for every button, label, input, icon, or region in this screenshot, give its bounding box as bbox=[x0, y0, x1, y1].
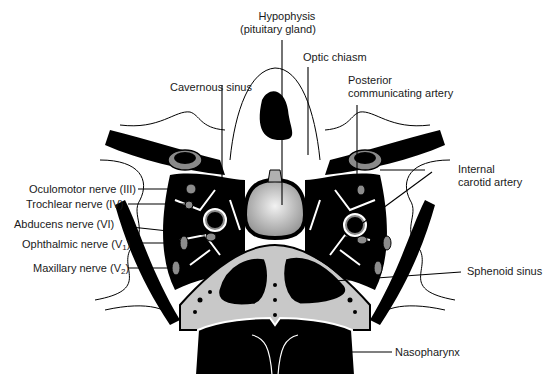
label-nasopharynx: Nasopharynx bbox=[395, 346, 460, 359]
label-optic-chiasm: Optic chiasm bbox=[303, 51, 367, 64]
label-hypophysis: Hypophysis (pituitary gland) bbox=[258, 10, 316, 36]
pituitary-gland bbox=[245, 170, 305, 238]
label-ica-line1: Internal bbox=[458, 163, 522, 176]
nasopharynx bbox=[195, 318, 355, 375]
maxillary-text: Maxillary nerve (V bbox=[33, 262, 121, 274]
label-ica-line2: carotid artery bbox=[458, 176, 522, 189]
anatomy-figure: Hypophysis (pituitary gland) Optic chias… bbox=[0, 0, 550, 389]
label-posterior-line2: communicating artery bbox=[348, 87, 453, 100]
label-oculomotor-nerve: Oculomotor nerve (III) bbox=[29, 183, 136, 196]
label-sphenoid-sinus: Sphenoid sinus bbox=[467, 265, 542, 278]
label-hypophysis-line1: Hypophysis bbox=[258, 10, 316, 23]
label-abducens-nerve: Abducens nerve (VI) bbox=[14, 218, 114, 231]
label-cavernous-sinus: Cavernous sinus bbox=[170, 81, 252, 94]
label-ophthalmic-nerve: Ophthalmic nerve (V1) bbox=[22, 238, 130, 254]
label-internal-carotid-artery: Internal carotid artery bbox=[458, 163, 522, 189]
label-posterior-line1: Posterior bbox=[348, 74, 453, 87]
maxillary-paren: ) bbox=[125, 262, 129, 274]
ophthalmic-text: Ophthalmic nerve (V bbox=[22, 238, 122, 250]
label-maxillary-nerve: Maxillary nerve (V2) bbox=[33, 262, 129, 278]
label-posterior-communicating-artery: Posterior communicating artery bbox=[348, 74, 453, 100]
ophthalmic-paren: ) bbox=[127, 238, 131, 250]
label-hypophysis-line2: (pituitary gland) bbox=[240, 23, 316, 36]
label-trochlear-nerve: Trochlear nerve (IV) bbox=[26, 198, 123, 211]
